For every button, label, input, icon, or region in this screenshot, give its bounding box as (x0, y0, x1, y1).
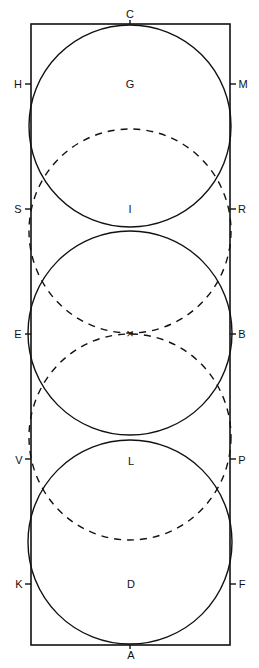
point-label-k: K (15, 578, 22, 590)
circle-top (29, 25, 231, 227)
point-label-s: S (14, 203, 21, 215)
point-label-g: G (126, 78, 135, 90)
point-label-h: H (14, 78, 22, 90)
point-label-i: I (128, 203, 131, 215)
point-label-r: R (238, 203, 246, 215)
point-label-a: A (127, 649, 134, 661)
point-label-l: L (128, 455, 134, 467)
dashed-circle-lower (29, 334, 231, 540)
diagram-canvas: CHMGSRIEBVPLKFDA× (0, 0, 259, 668)
point-label-m: M (238, 78, 247, 90)
point-label-b: B (238, 328, 245, 340)
point-label-e: E (14, 328, 21, 340)
point-label-d: D (127, 578, 135, 590)
point-label-p: P (238, 454, 245, 466)
circle-bottom (28, 440, 232, 644)
point-label-f: F (239, 578, 246, 590)
point-label-c: C (126, 8, 134, 20)
point-label-v: V (15, 454, 22, 466)
center-cross-mark: × (126, 328, 134, 340)
